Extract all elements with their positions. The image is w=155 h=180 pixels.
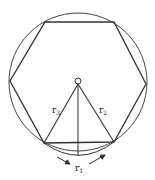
radius-right — [78, 84, 114, 142]
label-r2: r2 — [99, 105, 107, 116]
hexagon-diagram: r3 r2 r1 — [0, 0, 155, 180]
arrow-right — [89, 155, 105, 164]
label-r3: r3 — [52, 105, 60, 116]
arrow-left — [57, 157, 70, 164]
label-r1: r1 — [75, 163, 83, 174]
center-point — [75, 78, 81, 84]
radius-left — [44, 84, 78, 143]
sagging-arc — [44, 142, 114, 155]
